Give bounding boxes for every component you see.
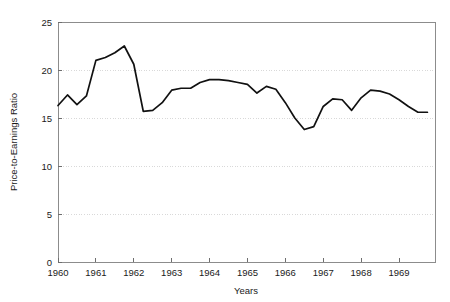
x-axis-ticks [58,258,399,262]
y-tick-label-15: 15 [41,113,52,124]
x-tick-label-1966: 1966 [275,267,296,278]
y-tick-label-10: 10 [41,161,52,172]
x-tick-label-1967: 1967 [313,267,334,278]
x-axis-title: Years [234,285,258,296]
x-tick-label-1963: 1963 [161,267,182,278]
y-axis-ticks [58,22,62,262]
x-tick-label-1969: 1969 [388,267,409,278]
data-series-group [58,46,427,130]
y-tick-label-5: 5 [47,209,52,220]
series-line-0 [58,46,427,130]
y-tick-label-20: 20 [41,65,52,76]
axes-frame [58,22,435,262]
x-tick-label-1962: 1962 [123,267,144,278]
x-axis-tick-labels: 1960196119621963196419651966196719681969 [47,267,409,278]
x-tick-label-1968: 1968 [351,267,372,278]
x-tick-label-1961: 1961 [85,267,106,278]
x-tick-label-1960: 1960 [47,267,68,278]
y-tick-label-25: 25 [41,17,52,28]
price-earnings-line-chart: 1960196119621963196419651966196719681969… [0,0,450,302]
grid-lines [58,70,435,262]
y-tick-label-0: 0 [47,257,52,268]
plot-frame [58,22,435,262]
chart-canvas: 1960196119621963196419651966196719681969… [0,0,450,302]
y-axis-tick-labels: 0510152025 [41,17,52,268]
y-axis-title: Price-to-Earnings Ratio [8,93,19,191]
x-tick-label-1965: 1965 [237,267,258,278]
x-tick-label-1964: 1964 [199,267,220,278]
